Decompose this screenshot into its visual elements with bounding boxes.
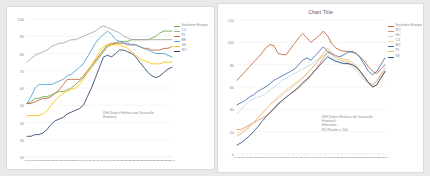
legend-swatch-icon [174,51,180,52]
chart-right-legend[interactable]: Southern EuropeROHUCZBGPLSK [388,24,426,60]
legend-item[interactable]: LU [174,29,216,33]
legend-swatch-icon [388,41,394,42]
legend-swatch-icon [388,26,394,27]
legend-item[interactable]: PL [388,49,426,53]
chart-right[interactable]: Chart Title 020406080100120 197719781979… [217,3,424,173]
chart-right-annotation: IDH (Índice Histórico de Desarrollo Huma… [322,115,373,132]
chart-left-legend[interactable]: Southern EuropeLUPLBESKRO [174,24,216,55]
chart-left-annotation: IDH (Índice Histórico de Desarrollo Huma… [103,111,154,119]
legend-item[interactable]: Southern Europe [174,24,216,28]
legend-label: SK [396,55,401,59]
legend-item[interactable]: RO [174,49,216,53]
legend-swatch-icon [174,41,180,42]
legend-item[interactable]: RO [388,29,426,33]
screenshot-root: 2030405060708090100 19771978197919801981… [0,0,430,176]
legend-swatch-icon [388,51,394,52]
series-line [237,31,385,80]
legend-item[interactable]: SK [388,55,426,59]
chart-left[interactable]: 2030405060708090100 19771978197919801981… [6,6,215,170]
legend-swatch-icon [388,57,394,58]
legend-label: PL [396,49,400,53]
legend-item[interactable]: PL [174,34,216,38]
legend-item[interactable]: SK [174,44,216,48]
legend-item[interactable]: BG [388,44,426,48]
legend-item[interactable]: Southern Europe [388,24,426,28]
legend-item[interactable]: HU [388,34,426,38]
legend-swatch-icon [388,31,394,32]
series-line [237,55,385,114]
legend-swatch-icon [174,36,180,37]
legend-swatch-icon [174,26,180,27]
legend-swatch-icon [174,46,180,47]
legend-swatch-icon [388,36,394,37]
legend-label: RO [182,49,187,53]
legend-swatch-icon [388,46,394,47]
legend-item[interactable]: BE [174,39,216,43]
legend-item[interactable]: CZ [388,39,426,43]
legend-swatch-icon [174,31,180,32]
